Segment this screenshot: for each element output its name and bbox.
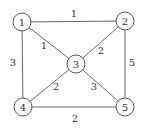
node-4: 4 bbox=[14, 98, 32, 116]
node-2: 2 bbox=[116, 12, 134, 30]
node-label: 3 bbox=[73, 59, 79, 70]
edge-3-5 bbox=[76, 64, 125, 107]
node-label: 4 bbox=[20, 102, 26, 113]
edge-weight-1-3: 1 bbox=[41, 40, 47, 51]
node-5: 5 bbox=[116, 98, 134, 116]
node-label: 5 bbox=[122, 102, 128, 113]
edge-weight-1-2: 1 bbox=[71, 8, 77, 19]
edge-weight-4-5: 2 bbox=[72, 113, 78, 124]
edge-3-4 bbox=[23, 64, 76, 107]
node-label: 1 bbox=[19, 17, 25, 28]
node-label: 2 bbox=[122, 16, 128, 27]
edge-weight-2-3: 2 bbox=[98, 45, 104, 56]
edge-1-3 bbox=[22, 22, 76, 64]
edge-1-2 bbox=[22, 21, 125, 22]
edge-weight-3-5: 3 bbox=[91, 81, 97, 92]
edge-weight-1-4: 3 bbox=[10, 57, 16, 68]
edge-2-3 bbox=[76, 21, 125, 64]
graph-diagram: 11235232 12345 bbox=[0, 0, 146, 131]
node-1: 1 bbox=[13, 13, 31, 31]
node-3: 3 bbox=[67, 55, 85, 73]
edge-weight-2-5: 5 bbox=[129, 57, 135, 68]
edge-1-4 bbox=[22, 22, 23, 107]
edge-weight-3-4: 2 bbox=[53, 81, 59, 92]
